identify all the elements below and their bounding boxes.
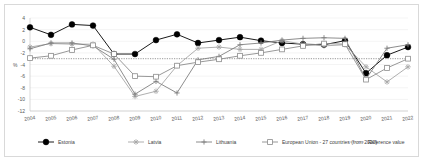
data-point [174, 90, 179, 95]
data-point [364, 77, 369, 82]
data-point [280, 47, 285, 52]
x-axis-tick-label: 2008 [108, 114, 120, 122]
legend-item[interactable]: Lithuania [196, 139, 237, 145]
y-axis-tick-label: -6 [21, 73, 26, 79]
data-point [216, 44, 222, 50]
x-axis-tick-label: 2010 [150, 114, 162, 122]
data-point [28, 56, 33, 61]
x-axis-tick-label: 2020 [360, 114, 372, 122]
data-point [300, 36, 305, 41]
legend-marker-symbol [133, 139, 139, 145]
data-point [48, 32, 54, 38]
x-axis-tick-label: 2011 [171, 114, 183, 121]
data-point [175, 63, 180, 68]
legend-item[interactable]: Latvia [128, 139, 162, 145]
data-point [112, 52, 117, 57]
data-point [322, 41, 327, 46]
x-axis-tick-label: 2007 [87, 114, 99, 122]
data-point [70, 48, 75, 53]
data-point [343, 42, 348, 47]
legend-label: Reference value [368, 139, 405, 145]
y-axis-tick-label: 2 [22, 27, 25, 33]
data-point [385, 66, 390, 71]
data-point [91, 43, 96, 48]
x-axis-tick-label: 2017 [297, 114, 309, 122]
x-axis-tick-label: 2021 [381, 114, 393, 122]
data-point [174, 31, 180, 37]
data-point [27, 24, 33, 30]
data-point [238, 53, 243, 58]
data-point [90, 23, 96, 29]
legend-label: Lithuania [216, 139, 237, 145]
data-point [195, 45, 201, 51]
data-point [154, 74, 159, 79]
data-point [153, 79, 158, 84]
legend-label: Latvia [148, 139, 162, 145]
data-point [133, 74, 138, 79]
data-point [111, 57, 116, 62]
x-axis-tick-label: 2012 [192, 114, 204, 122]
data-point [195, 40, 201, 46]
line-chart-plot: 420-2-4-6-8-10-12%2004200520062007200820… [0, 0, 423, 161]
data-point [259, 50, 264, 55]
data-point [237, 47, 243, 53]
x-axis-tick-label: 2009 [129, 114, 141, 122]
legend-label: Estonia [58, 139, 75, 145]
y-axis-title: % [13, 62, 18, 68]
x-axis-tick-label: 2016 [276, 114, 288, 122]
data-point [237, 42, 242, 47]
data-point [132, 51, 138, 57]
y-axis-tick-label: -10 [18, 96, 25, 102]
data-point [69, 21, 75, 27]
y-axis-tick-label: -8 [21, 85, 26, 91]
data-point [237, 34, 243, 40]
legend-item[interactable]: Estonia [38, 139, 75, 145]
data-point [384, 79, 390, 85]
x-axis-tick-label: 2006 [66, 114, 78, 122]
y-axis-tick-label: -12 [18, 108, 25, 114]
legend-marker-symbol [268, 140, 273, 145]
x-axis-tick-label: 2005 [45, 114, 57, 122]
data-point [384, 46, 389, 51]
data-point [405, 64, 411, 70]
data-point [153, 37, 159, 43]
data-point [217, 57, 222, 62]
data-point [216, 37, 222, 43]
y-axis-tick-label: 4 [22, 15, 25, 21]
x-axis-tick-label: 2004 [24, 114, 36, 122]
x-axis-tick-label: 2022 [402, 114, 414, 122]
y-axis-tick-label: -2 [21, 50, 26, 56]
data-point [153, 88, 159, 94]
data-point [384, 52, 390, 58]
data-point [301, 44, 306, 49]
data-point [363, 64, 369, 70]
x-axis-tick-label: 2015 [255, 114, 267, 122]
x-axis-tick-label: 2019 [339, 114, 351, 122]
data-point [196, 60, 201, 65]
legend-marker-symbol [201, 139, 206, 144]
x-axis-tick-label: 2014 [234, 114, 246, 122]
data-point [321, 35, 326, 40]
chart-figure: 420-2-4-6-8-10-12%2004200520062007200820… [0, 0, 423, 161]
data-point [111, 63, 117, 69]
data-point [49, 53, 54, 58]
y-axis-tick-label: 0 [22, 38, 25, 44]
x-axis-tick-label: 2013 [213, 114, 225, 122]
chart-legend: EstoniaLatviaLithuaniaEuropean Union - 2… [38, 139, 405, 145]
legend-marker-symbol [43, 139, 49, 145]
x-axis-tick-label: 2018 [318, 114, 330, 122]
y-axis-tick-label: -4 [21, 62, 26, 68]
data-point [406, 56, 411, 61]
